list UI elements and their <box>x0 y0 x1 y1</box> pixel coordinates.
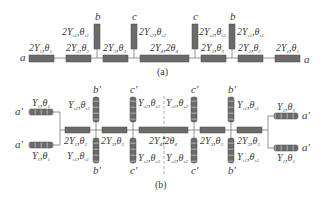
port-a-prime-right-bottom: a' <box>302 142 310 153</box>
label-a-stub-b-right: 2Ys1,θs1 <box>237 27 264 41</box>
stub-c-prime-up-right <box>191 97 197 122</box>
label-a-stub-c-right: 2Ys2,θs2 <box>199 27 226 41</box>
segment-b4 <box>139 127 188 133</box>
stub-b-prime-down-right <box>228 138 234 163</box>
label-b-stub-c-down-left: Ys2,θs2 <box>138 153 160 167</box>
stub-b-right <box>229 24 235 49</box>
stub-c-prime-up-left <box>130 97 136 122</box>
label-a-seg4: 2Y4,2θ4 <box>150 43 178 57</box>
label-b-stub-c-up-right: Ys2,θs2 <box>166 98 188 112</box>
port-a-prime-left-top: a' <box>15 106 23 117</box>
label-b-stub-b-up-left: Ys1,θs1 <box>68 100 90 114</box>
label-a-stub-b-left: 2Ys1,θs1 <box>62 27 89 41</box>
label-b-stub-b-down-right: Ys1,θs1 <box>237 152 259 166</box>
label-b-fork-left-top: Y1,θ1 <box>32 98 50 112</box>
label-a-seg1: 2Y1,θ1 <box>29 43 52 57</box>
port-a-prime-right-top: a' <box>302 110 310 121</box>
label-b-seg2-left: 2Y2,θ2 <box>64 136 87 150</box>
caption-a: (a) <box>157 67 168 77</box>
label-a-seg6: 2Y2,θ2 <box>238 43 261 57</box>
label-b-seg3-right: 2Y3,θ3 <box>200 136 223 150</box>
label-a-stub-c-left: 2Ys2,θs2 <box>139 27 166 41</box>
segment-b2-right <box>237 127 262 133</box>
label-b-fork-right-top: Y1,θ1 <box>277 102 295 116</box>
stub-c-prime-down-right <box>191 138 197 163</box>
label-b-stub-c-up-left: Ys2,θs2 <box>138 98 160 112</box>
label-b-stub-b-down-left: Ys1,θs1 <box>67 151 89 165</box>
stub-b-left <box>94 24 100 49</box>
label-b-seg4: 2Y4,2θ4 <box>149 136 177 150</box>
port-b-prime-bottom-right: b' <box>228 165 236 176</box>
label-b-seg2-right: 2Y2,θ2 <box>237 136 260 150</box>
stub-b-prime-down-left <box>93 138 99 163</box>
port-b-right: b <box>230 11 236 22</box>
label-b-fork-left-bottom: Y1,θ1 <box>32 151 50 165</box>
stub-b-prime-up-left <box>93 97 99 122</box>
port-a-right: a <box>304 54 310 65</box>
port-b-prime-bottom-left: b' <box>93 165 101 176</box>
label-a-seg2: 2Y2,θ2 <box>66 43 89 57</box>
fork-stub-left-bottom <box>29 142 53 148</box>
port-b-left: b <box>95 11 101 22</box>
port-c-prime-bottom-right: c' <box>191 165 198 176</box>
segment-b3-left <box>102 127 127 133</box>
stub-c-right <box>192 24 198 49</box>
label-b-seg3-left: 2Y3,θ3 <box>101 136 124 150</box>
port-c-right: c <box>193 11 198 22</box>
label-b-stub-c-down-right: Ys2,θs2 <box>166 153 188 167</box>
stub-c-prime-down-left <box>130 138 136 163</box>
label-b-fork-right-bottom: Y1,θ1 <box>277 153 295 167</box>
port-c-left: c <box>132 11 137 22</box>
port-c-prime-bottom-left: c' <box>130 165 137 176</box>
caption-b: (b) <box>155 180 167 190</box>
port-b-prime-top-left: b' <box>93 84 101 95</box>
label-a-seg3: 2Y3,θ3 <box>103 43 126 57</box>
label-a-seg7: 2Y1,θ1 <box>276 43 299 57</box>
segment-b3-right <box>200 127 225 133</box>
stub-c-left <box>131 24 137 49</box>
port-a-prime-left-bottom: a' <box>15 139 23 150</box>
label-b-stub-b-up-right: Ys1,θs1 <box>237 100 259 114</box>
port-b-prime-top-right: b' <box>228 84 236 95</box>
fork-stub-right-bottom <box>274 145 298 151</box>
segment-b2-left <box>65 127 90 133</box>
label-a-seg5: 2Y3,θ3 <box>201 43 224 57</box>
port-c-prime-top-left: c' <box>130 84 137 95</box>
port-a-left: a <box>20 52 26 63</box>
port-c-prime-top-right: c' <box>191 84 198 95</box>
stub-b-prime-up-right <box>228 97 234 122</box>
